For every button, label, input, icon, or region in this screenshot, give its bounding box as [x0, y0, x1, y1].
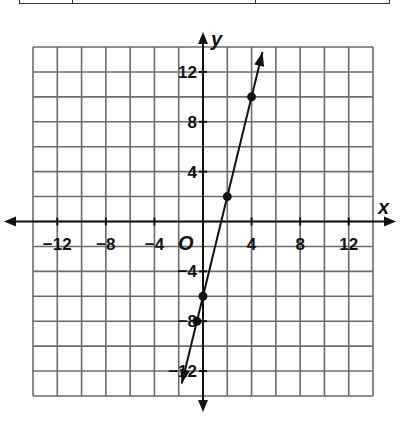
y-tick-label: 8: [188, 113, 197, 132]
data-point: [247, 92, 256, 101]
data-point: [223, 192, 232, 201]
data-point: [199, 292, 208, 301]
x-tick-label: −8: [96, 235, 115, 254]
y-tick-label: 12: [178, 63, 197, 82]
x-tick-label: −4: [145, 235, 165, 254]
graph-line: [182, 52, 263, 384]
axes: [4, 32, 396, 412]
y-axis-arrow-down-icon: [198, 400, 208, 412]
origin-label: O: [178, 232, 194, 254]
x-axis-arrow-right-icon: [384, 217, 396, 227]
y-tick-label: −4: [178, 262, 198, 281]
coordinate-plane: −12−8−448121284−4−8−12 x y O: [0, 0, 408, 422]
x-tick-label: 12: [339, 235, 358, 254]
line-arrow-up-icon: [254, 52, 264, 67]
x-axis-label: x: [377, 196, 390, 218]
y-axis-arrow-up-icon: [198, 32, 208, 44]
x-tick-label: −12: [43, 235, 72, 254]
y-axis-label: y: [210, 28, 223, 50]
data-point: [192, 317, 201, 326]
y-tick-label: 4: [188, 163, 198, 182]
x-axis-arrow-left-icon: [4, 217, 16, 227]
x-tick-label: 8: [295, 235, 304, 254]
x-tick-label: 4: [247, 235, 257, 254]
